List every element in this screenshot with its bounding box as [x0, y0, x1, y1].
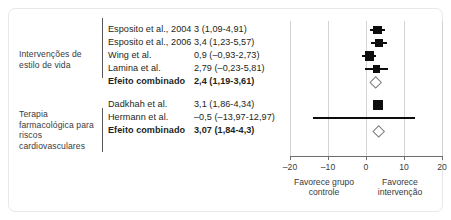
gridline-0 [366, 21, 367, 156]
group-separator-bar-lifestyle [102, 18, 103, 78]
x-axis-line [290, 156, 442, 157]
effect-size-ci: 2,4 (1,19-3,61) [194, 75, 254, 88]
summary-row: Efeito combinado2,4 (1,19-3,61) [108, 75, 288, 88]
gridline-20 [442, 21, 443, 156]
group-label-lifestyle: Intervenções de estilo de vida [19, 49, 97, 70]
forest-plot-card: Intervenções de estilo de vida Terapia f… [8, 8, 443, 212]
summary-diamond-marker [369, 76, 382, 89]
study-row: Dadkhah et al.3,1 (1,86-4,34) [108, 98, 288, 111]
study-row: Esposito et al., 20063,4 (1,23-5,57) [108, 36, 288, 49]
group-label-pharmacological: Terapia farmacológica para riscos cardio… [19, 109, 101, 151]
study-point-marker [373, 26, 382, 35]
axis-tick-label--20: –20 [275, 162, 305, 172]
effect-size-ci: 2,79 (–0,23-5,81) [194, 62, 265, 75]
summary-row: Efeito combinado3,07 (1,84-4,3) [108, 124, 288, 137]
effect-size-ci: 3,1 (1,86-4,34) [194, 98, 254, 111]
axis-annotation-left: Favorece grupo controle [287, 177, 361, 198]
confidence-interval-line [313, 117, 415, 118]
study-row: Wing et al.0,9 (–0,93-2,73) [108, 49, 288, 62]
axis-tick-label-20: 20 [427, 162, 451, 172]
study-point-marker [375, 39, 384, 48]
effect-size-ci: 3,07 (1,84-4,3) [194, 124, 254, 137]
study-point-marker [365, 51, 374, 60]
study-name: Hermann et al. [108, 111, 168, 124]
effect-size-ci: –0,5 (–13,97-12,97) [194, 111, 275, 124]
study-point-marker [373, 100, 383, 110]
axis-tick-label-0: 0 [351, 162, 381, 172]
study-name: Esposito et al., 2006 [108, 36, 191, 49]
gridline-10 [404, 21, 405, 156]
effect-size-ci: 3 (1,09-4,91) [194, 23, 247, 36]
group-separator-bar-pharmacological [102, 108, 103, 152]
study-row: Hermann et al.–0,5 (–13,97-12,97) [108, 111, 288, 124]
axis-tick-label--10: –10 [313, 162, 343, 172]
study-name: Efeito combinado [108, 124, 185, 137]
study-point-marker [373, 65, 381, 73]
study-row: Esposito et al., 20043 (1,09-4,91) [108, 23, 288, 36]
axis-tick-label-10: 10 [389, 162, 419, 172]
study-name: Wing et al. [108, 49, 152, 62]
study-name: Lamina et al. [108, 62, 161, 75]
effect-size-ci: 3,4 (1,23-5,57) [194, 36, 254, 49]
study-name: Efeito combinado [108, 75, 185, 88]
summary-diamond-marker [372, 125, 385, 138]
gridline--10 [328, 21, 329, 156]
study-row: Lamina et al.2,79 (–0,23-5,81) [108, 62, 288, 75]
effect-size-ci: 0,9 (–0,93-2,73) [194, 49, 260, 62]
study-name: Dadkhah et al. [108, 98, 167, 111]
axis-annotation-right: Favorece intervenção [363, 177, 437, 198]
gridline--20 [290, 21, 291, 156]
study-name: Esposito et al., 2004 [108, 23, 191, 36]
forest-plot-axes: –20–1001020Favorece grupo controleFavore… [284, 13, 442, 158]
forest-plot: Intervenções de estilo de vida Terapia f… [9, 9, 442, 211]
